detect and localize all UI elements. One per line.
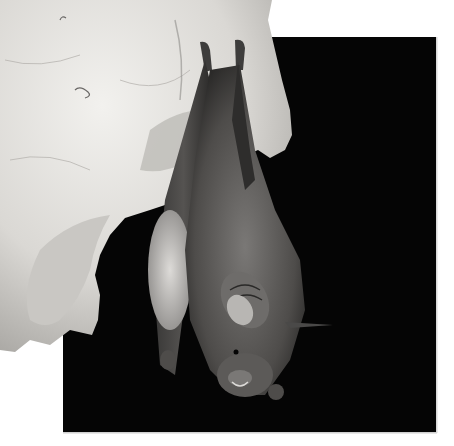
- bat-photo: [0, 0, 454, 446]
- photo-canvas: [0, 0, 454, 446]
